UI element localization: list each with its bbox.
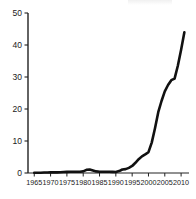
data-series-group — [34, 32, 184, 172]
chart-plot-area — [0, 0, 196, 199]
data-series-line — [34, 32, 184, 172]
y-tick-label: 0 — [4, 169, 22, 178]
y-tick-label: 40 — [4, 41, 22, 50]
y-tick-label: 50 — [4, 9, 22, 18]
y-tick-label: 10 — [4, 137, 22, 146]
line-chart: 01020304050 1965197019751980198519901995… — [0, 0, 196, 199]
x-tick-label: 2010 — [170, 179, 192, 186]
y-axis — [25, 13, 29, 173]
y-tick-label: 30 — [4, 73, 22, 82]
y-tick-label: 20 — [4, 105, 22, 114]
